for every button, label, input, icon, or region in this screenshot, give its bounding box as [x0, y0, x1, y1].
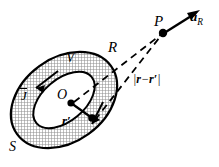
- source-point-marker: [88, 114, 96, 122]
- label-current-density-symbol: J: [21, 88, 27, 102]
- label-source-position: r′: [62, 114, 71, 127]
- label-surface: S: [9, 140, 16, 154]
- origin-point-marker: [67, 99, 74, 106]
- vector-r-prime: r′: [149, 72, 157, 86]
- label-current-density: J: [21, 88, 27, 102]
- label-source-position-symbol: r′: [62, 113, 71, 128]
- label-distance-R: R: [108, 40, 117, 55]
- figure-canvas: [0, 0, 219, 167]
- label-unit-vector: uR: [190, 10, 203, 27]
- volume-region-fill: [0, 0, 219, 167]
- label-volume: V: [66, 51, 75, 65]
- label-unit-vector-subscript: R: [197, 17, 203, 27]
- physics-figure-container: P uR R |r−r′| V O J r′ S: [0, 0, 219, 167]
- label-origin: O: [57, 88, 67, 102]
- label-field-point: P: [154, 14, 163, 29]
- minus-sign: −: [141, 72, 149, 86]
- label-distance-expression: |r−r′|: [133, 73, 160, 85]
- abs-bar-close: |: [157, 72, 160, 86]
